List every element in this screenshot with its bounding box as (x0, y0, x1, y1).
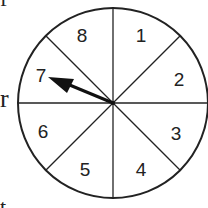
section-label-1: 1 (136, 25, 147, 46)
section-label-7: 7 (36, 65, 47, 86)
spinner-diagram: 8 1 2 3 4 5 6 7 (0, 0, 208, 208)
section-label-3: 3 (171, 123, 182, 144)
section-label-6: 6 (38, 121, 49, 142)
section-label-4: 4 (136, 159, 147, 180)
section-label-5: 5 (80, 159, 91, 180)
section-label-8: 8 (77, 25, 88, 46)
spinner-arrow[interactable] (48, 77, 113, 103)
section-label-2: 2 (174, 69, 185, 90)
arrow-head-icon (48, 77, 74, 93)
spinner-pivot (111, 101, 115, 105)
